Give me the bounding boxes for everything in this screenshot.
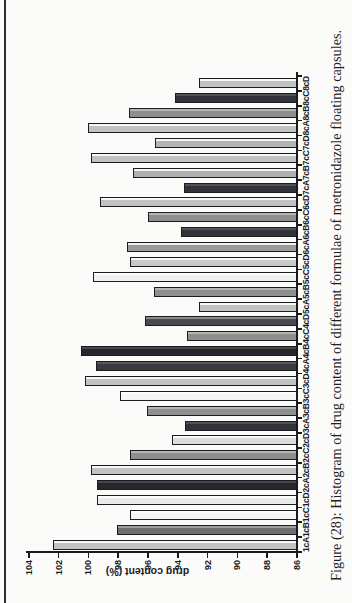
bar-8cB bbox=[129, 108, 297, 118]
bar-7cD bbox=[155, 138, 297, 148]
bar-5cA bbox=[199, 302, 297, 312]
bar-2cA bbox=[97, 480, 297, 490]
y-tick-label: 104 bbox=[24, 560, 34, 586]
y-tick bbox=[117, 552, 119, 558]
bar-3cB bbox=[147, 406, 297, 416]
drug-content-histogram: drug content (%) 10410210098969492908886… bbox=[7, 0, 317, 603]
bar-4cB bbox=[81, 346, 297, 356]
bar-5cD bbox=[130, 257, 297, 267]
bar-5cB bbox=[154, 287, 297, 297]
bar-8cC bbox=[175, 93, 297, 103]
y-tick-label: 102 bbox=[54, 560, 64, 586]
y-tick bbox=[207, 552, 209, 558]
y-axis-line bbox=[26, 551, 298, 553]
y-tick-label: 90 bbox=[232, 560, 242, 586]
y-tick bbox=[296, 552, 298, 558]
y-tick-label: 100 bbox=[83, 560, 93, 586]
bar-4cA bbox=[96, 361, 297, 371]
y-tick-label: 98 bbox=[113, 560, 123, 586]
y-tick-label: 94 bbox=[173, 560, 183, 586]
y-tick bbox=[28, 552, 30, 558]
x-category-label: 8cD bbox=[301, 72, 311, 94]
bar-1cB bbox=[117, 525, 297, 535]
bar-1cD bbox=[97, 495, 297, 505]
y-tick bbox=[177, 552, 179, 558]
y-tick bbox=[88, 552, 90, 558]
scanned-figure-page: drug content (%) 10410210098969492908886… bbox=[0, 0, 352, 603]
bar-3cC bbox=[120, 391, 297, 401]
bar-4cC bbox=[187, 331, 297, 341]
y-tick bbox=[266, 552, 268, 558]
document-border-line bbox=[4, 0, 6, 603]
bar-8cA bbox=[88, 123, 297, 133]
bar-6cB bbox=[181, 227, 297, 237]
bar-6cC bbox=[148, 212, 297, 222]
y-tick-label: 96 bbox=[143, 560, 153, 586]
bar-5cC bbox=[93, 272, 297, 282]
figure-caption: Figure (28): Histogram of drug content o… bbox=[328, 3, 345, 581]
bar-3cD bbox=[85, 376, 297, 386]
bar-1cA bbox=[53, 540, 297, 550]
bar-7cB bbox=[133, 168, 297, 178]
bar-2cB bbox=[91, 465, 297, 475]
bar-8cD bbox=[199, 78, 297, 88]
y-tick-label: 92 bbox=[203, 560, 213, 586]
bar-2cD bbox=[172, 435, 297, 445]
bar-3cA bbox=[185, 421, 297, 431]
y-tick-label: 86 bbox=[292, 560, 302, 586]
y-tick bbox=[237, 552, 239, 558]
bar-2cC bbox=[130, 450, 297, 460]
bar-7cC bbox=[91, 153, 297, 163]
y-tick bbox=[147, 552, 149, 558]
bar-1cC bbox=[130, 510, 297, 520]
bar-6cA bbox=[127, 242, 297, 252]
rotated-figure-container: drug content (%) 10410210098969492908886… bbox=[7, 0, 352, 603]
y-tick-label: 88 bbox=[262, 560, 272, 586]
y-tick bbox=[58, 552, 60, 558]
bar-7cA bbox=[184, 183, 297, 193]
bar-4cD bbox=[145, 316, 297, 326]
bar-6cD bbox=[100, 197, 297, 207]
